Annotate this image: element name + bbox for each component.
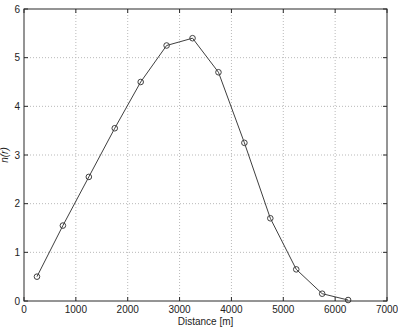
data-layer xyxy=(34,35,351,302)
y-tick-label: 0 xyxy=(14,296,20,307)
tick-layer: 010002000300040005000600070000123456 xyxy=(14,4,398,316)
data-point-marker xyxy=(34,274,40,280)
grid-layer xyxy=(24,9,387,301)
x-tick-label: 0 xyxy=(21,304,27,315)
figure-window: 010002000300040005000600070000123456 Dis… xyxy=(0,0,398,332)
line-chart: 010002000300040005000600070000123456 Dis… xyxy=(0,0,398,332)
x-tick-label: 2000 xyxy=(117,304,140,315)
x-tick-label: 6000 xyxy=(324,304,347,315)
y-tick-label: 1 xyxy=(14,247,20,258)
y-tick-label: 2 xyxy=(14,198,20,209)
x-tick-label: 5000 xyxy=(272,304,295,315)
x-tick-label: 3000 xyxy=(168,304,191,315)
label-layer: Distance [m] n(r) xyxy=(0,147,234,327)
x-tick-label: 4000 xyxy=(220,304,243,315)
y-tick-label: 3 xyxy=(14,150,20,161)
y-axis-label: n(r) xyxy=(0,147,10,163)
data-line xyxy=(37,38,348,300)
x-tick-label: 7000 xyxy=(376,304,398,315)
y-tick-label: 4 xyxy=(14,101,20,112)
y-tick-label: 5 xyxy=(14,52,20,63)
y-tick-label: 6 xyxy=(14,4,20,15)
x-tick-label: 1000 xyxy=(65,304,88,315)
x-axis-label: Distance [m] xyxy=(178,316,234,327)
